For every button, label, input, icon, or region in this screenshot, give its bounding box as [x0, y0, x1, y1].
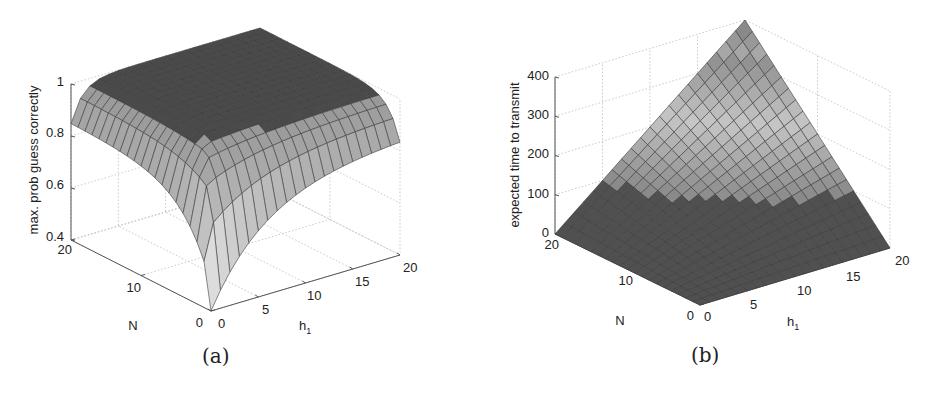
h1-tick — [255, 295, 258, 297]
z-tick — [71, 84, 75, 85]
figure-a: 0.4 0.6 0.8 1 0 10 20 0 5 10 15 20 max. … — [0, 0, 468, 401]
caption-a: (a) — [202, 344, 230, 368]
h1-tick — [350, 267, 353, 269]
z-tick — [71, 136, 75, 137]
xtick-label: 10 — [797, 283, 811, 298]
ytick-label: 10 — [619, 273, 633, 288]
z-tick — [555, 195, 559, 196]
ytick-label: 20 — [545, 237, 559, 252]
ztick-label: 100 — [527, 186, 549, 201]
z-tick — [555, 77, 559, 78]
ytick-label: 10 — [127, 280, 141, 295]
z-axis-label: max. prob guess correctly — [26, 85, 41, 234]
z-axis-label: expected time to transmit — [507, 82, 522, 228]
h1-tick — [303, 281, 306, 283]
z-tick — [555, 156, 559, 157]
x-axis-label: h1 — [787, 314, 799, 332]
ztick-label: 1 — [57, 74, 64, 89]
y-axis-label: N — [615, 313, 624, 328]
xtick-label: 20 — [403, 260, 417, 275]
y-axis-label: N — [128, 318, 137, 333]
surface-plot-b: 0 100 200 300 400 0 10 20 0 5 10 15 20 e… — [469, 0, 937, 401]
surface-mesh — [71, 28, 400, 311]
xtick-label: 0 — [704, 309, 711, 324]
ztick-label: 0.8 — [46, 125, 64, 140]
ztick-label: 400 — [527, 68, 549, 83]
xtick-label: 10 — [307, 288, 321, 303]
xtick-label: 5 — [750, 297, 757, 312]
ztick-label: 200 — [527, 146, 549, 161]
ytick-label: 20 — [58, 242, 72, 257]
ytick-label: 0 — [687, 308, 694, 323]
z-tick — [555, 116, 559, 117]
figure-b: 0 100 200 300 400 0 10 20 0 5 10 15 20 e… — [469, 0, 937, 401]
xtick-label: 20 — [895, 253, 909, 268]
ztick-label: 300 — [527, 107, 549, 122]
n-tick — [141, 275, 145, 276]
xtick-label: 0 — [218, 316, 225, 331]
xtick-label: 5 — [262, 302, 269, 317]
x-axis-label: h1 — [299, 318, 311, 336]
ztick-label: 0.6 — [46, 177, 64, 192]
surface-plot-a: 0.4 0.6 0.8 1 0 10 20 0 5 10 15 20 max. … — [0, 0, 468, 401]
surface-mesh — [555, 20, 890, 305]
n-tick — [71, 239, 75, 240]
ytick-label: 0 — [196, 315, 203, 330]
caption-b: (b) — [691, 343, 719, 367]
xtick-label: 15 — [846, 269, 860, 284]
xtick-label: 15 — [355, 274, 369, 289]
z-tick — [71, 188, 75, 189]
